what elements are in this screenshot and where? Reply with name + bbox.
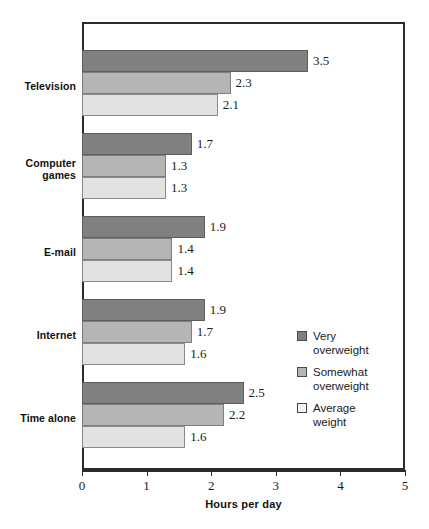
bar-row: 1.9 xyxy=(82,216,405,238)
chart-legend: Very overweight Somewhat overweight Aver… xyxy=(297,330,401,438)
bar-row: 1.4 xyxy=(82,238,405,260)
category-label-line1: Time alone xyxy=(20,412,76,424)
category-label-line1: Television xyxy=(24,80,76,92)
bar-e-mail-somewhat-overweight xyxy=(82,238,172,260)
bar-row: 1.3 xyxy=(82,177,405,199)
bar-value-label: 2.1 xyxy=(223,95,239,115)
bar-computer-games-somewhat-overweight xyxy=(82,155,166,177)
category-label-email: E-mail xyxy=(0,246,76,258)
bar-row: 2.3 xyxy=(82,72,405,94)
bar-row: 3.5 xyxy=(82,50,405,72)
category-label-computer-games: Computer games xyxy=(0,157,76,181)
bar-value-label: 1.3 xyxy=(171,178,187,198)
legend-label-line1: Average xyxy=(313,402,401,416)
x-axis-tick xyxy=(340,470,341,476)
x-axis-line xyxy=(82,470,405,472)
bar-value-label: 1.6 xyxy=(190,427,206,447)
bar-row: 2.1 xyxy=(82,94,405,116)
bar-value-label: 1.7 xyxy=(197,134,213,154)
bar-internet-somewhat-overweight xyxy=(82,321,192,343)
x-axis-tick-label: 4 xyxy=(325,478,355,494)
category-label-line1: Internet xyxy=(37,329,76,341)
legend-item-very-overweight: Very overweight xyxy=(297,330,401,357)
bar-time-alone-average-weight xyxy=(82,426,185,448)
bar-value-label: 1.3 xyxy=(171,156,187,176)
bar-chart: Television Computer games E-mail Interne… xyxy=(0,0,429,529)
category-label-line1: E-mail xyxy=(44,246,76,258)
legend-label-line1: Very xyxy=(313,330,401,344)
light-grey-swatch-icon xyxy=(297,403,307,413)
x-axis-tick-label: 2 xyxy=(196,478,226,494)
bar-value-label: 3.5 xyxy=(313,51,329,71)
legend-label-line2: weight xyxy=(313,416,401,430)
category-label-line1: Computer xyxy=(26,157,76,169)
legend-label-line2: overweight xyxy=(313,344,401,358)
bar-value-label: 1.4 xyxy=(177,239,193,259)
bar-row: 1.3 xyxy=(82,155,405,177)
bar-row: 1.7 xyxy=(82,133,405,155)
bar-time-alone-somewhat-overweight xyxy=(82,404,224,426)
bar-television-somewhat-overweight xyxy=(82,72,231,94)
medium-grey-swatch-icon xyxy=(297,367,307,377)
category-label-time-alone: Time alone xyxy=(0,412,76,424)
x-axis-tick-label: 5 xyxy=(390,478,420,494)
bar-value-label: 1.7 xyxy=(197,322,213,342)
bar-value-label: 2.2 xyxy=(229,405,245,425)
bar-time-alone-very-overweight xyxy=(82,382,244,404)
bar-value-label: 1.9 xyxy=(210,300,226,320)
bar-value-label: 1.6 xyxy=(190,344,206,364)
bar-row: 1.9 xyxy=(82,299,405,321)
legend-label-line1: Somewhat xyxy=(313,366,401,380)
category-label-internet: Internet xyxy=(0,329,76,341)
x-axis-tick xyxy=(211,470,212,476)
bar-value-label: 1.9 xyxy=(210,217,226,237)
x-axis-tick xyxy=(276,470,277,476)
category-axis-labels: Television Computer games E-mail Interne… xyxy=(0,22,76,470)
bar-e-mail-average-weight xyxy=(82,260,172,282)
bar-internet-average-weight xyxy=(82,343,185,365)
x-axis-tick-label: 1 xyxy=(132,478,162,494)
dark-grey-swatch-icon xyxy=(297,331,307,341)
x-axis-tick-label: 0 xyxy=(67,478,97,494)
category-label-television: Television xyxy=(0,80,76,92)
bar-internet-very-overweight xyxy=(82,299,205,321)
bar-e-mail-very-overweight xyxy=(82,216,205,238)
bar-value-label: 1.4 xyxy=(177,261,193,281)
bar-row: 1.4 xyxy=(82,260,405,282)
x-axis-tick-label: 3 xyxy=(261,478,291,494)
bar-computer-games-average-weight xyxy=(82,177,166,199)
bar-computer-games-very-overweight xyxy=(82,133,192,155)
category-label-line2: games xyxy=(42,169,76,181)
bar-value-label: 2.3 xyxy=(236,73,252,93)
bar-value-label: 2.5 xyxy=(249,383,265,403)
legend-item-somewhat-overweight: Somewhat overweight xyxy=(297,366,401,393)
legend-label-line2: overweight xyxy=(313,380,401,394)
x-axis-tick xyxy=(405,470,406,476)
bar-television-average-weight xyxy=(82,94,218,116)
x-axis-tick xyxy=(147,470,148,476)
x-axis-title: Hours per day xyxy=(82,498,405,510)
x-axis-tick xyxy=(82,470,83,476)
legend-item-average-weight: Average weight xyxy=(297,402,401,429)
bar-television-very-overweight xyxy=(82,50,308,72)
